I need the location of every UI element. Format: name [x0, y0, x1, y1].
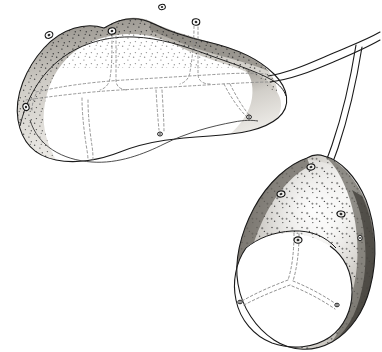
node-lower-right	[358, 235, 362, 241]
illustration-plate	[0, 0, 382, 352]
node-cap-left	[238, 300, 242, 304]
node-upper-right	[247, 115, 252, 119]
eye-upper-4	[192, 18, 200, 25]
eye-upper-2	[108, 27, 116, 34]
eye-lower-2	[277, 190, 286, 197]
illustration-canvas	[0, 0, 382, 352]
eye-lower-3	[337, 210, 346, 217]
node-cap-right	[335, 303, 339, 307]
eye-lower-4	[294, 237, 302, 243]
node-upper-bottom	[158, 132, 163, 136]
